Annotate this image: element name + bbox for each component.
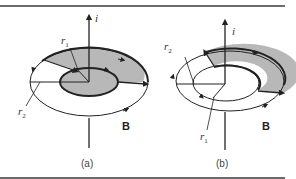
ampere-loop-figure: i r1 r2 B (a) i r2 r1 B (b) <box>0 0 296 179</box>
outer-arrow-left-b <box>172 76 173 79</box>
radius-r1-b <box>213 84 225 98</box>
r1-label-b: r1 <box>200 130 208 145</box>
caption-a: (a) <box>81 158 93 169</box>
field-label-a: B <box>122 120 130 132</box>
r2-label-a: r2 <box>18 105 26 120</box>
panel-a: i r1 r2 B (a) <box>18 12 148 169</box>
caption-b: (b) <box>216 158 228 169</box>
r1-leader-b <box>207 97 214 130</box>
r2-leader-a <box>26 82 40 106</box>
current-label-b: i <box>232 25 235 37</box>
r1-label-a: r1 <box>61 34 69 49</box>
r2-label-b: r2 <box>164 40 172 55</box>
sector-edge-right-a <box>118 82 146 84</box>
current-label-a: i <box>95 12 98 24</box>
panel-b: i r2 r1 B (b) <box>164 22 296 169</box>
field-label-b: B <box>262 120 270 132</box>
inner-arc-heavy-b <box>214 65 260 90</box>
